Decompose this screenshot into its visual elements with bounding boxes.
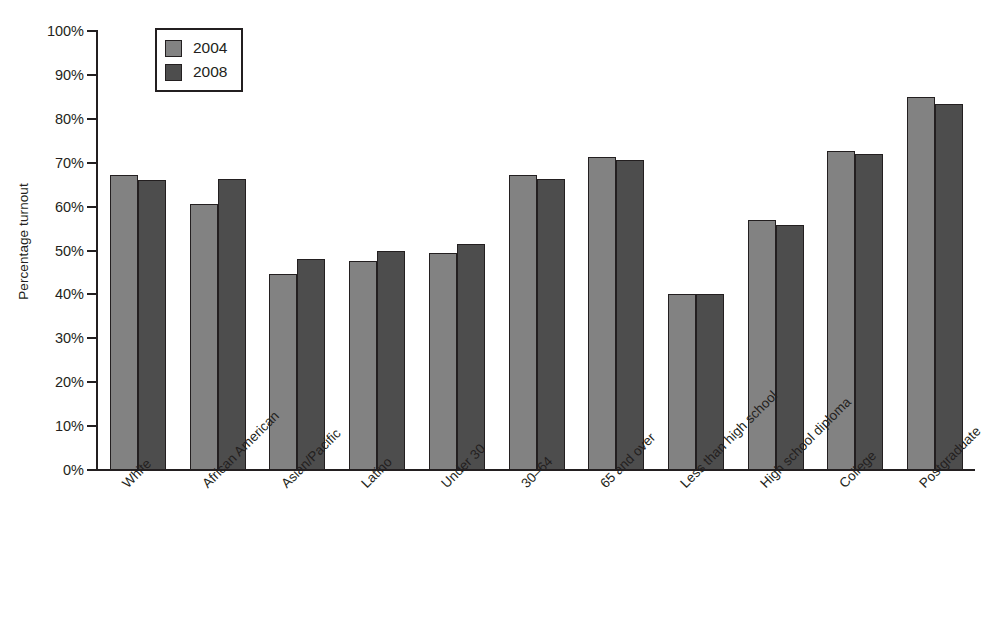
y-axis-tick	[87, 206, 97, 208]
y-axis-tick-label: 30%	[14, 331, 84, 346]
bar-2004-65-and-over[interactable]	[588, 157, 616, 470]
y-axis-tick-label: 10%	[14, 419, 84, 434]
legend: 2004 2008	[155, 28, 243, 92]
y-axis-tick	[87, 250, 97, 252]
legend-swatch-icon-2004	[165, 40, 182, 57]
bar-2004-postgraduate[interactable]	[907, 97, 935, 470]
y-axis-tick	[87, 337, 97, 339]
y-axis-tick	[87, 469, 97, 471]
bar-2008-college[interactable]	[855, 154, 883, 470]
y-axis-tick-label: 100%	[14, 24, 84, 39]
bar-2008-postgraduate[interactable]	[935, 104, 963, 470]
bar-2004-african-american[interactable]	[190, 204, 218, 470]
legend-item-2008[interactable]: 2008	[165, 60, 227, 84]
bar-2004-white[interactable]	[110, 175, 138, 470]
y-axis-tick	[87, 74, 97, 76]
y-axis-tick-label: 70%	[14, 156, 84, 171]
y-axis-tick-label: 50%	[14, 244, 84, 259]
bar-2008-65-and-over[interactable]	[616, 160, 644, 470]
bar-2004-under-30[interactable]	[429, 253, 457, 470]
bar-2004-30-64[interactable]	[509, 175, 537, 470]
legend-label-2008: 2008	[193, 64, 227, 80]
y-axis-tick-label: 60%	[14, 200, 84, 215]
bar-2004-less-than-high-school[interactable]	[668, 294, 696, 470]
y-axis-tick	[87, 30, 97, 32]
bar-2008-white[interactable]	[138, 180, 166, 470]
y-axis-title: Percentage turnout	[16, 147, 31, 337]
bar-2008-30-64[interactable]	[537, 179, 565, 470]
bar-2008-high-school-diploma[interactable]	[776, 225, 804, 470]
bar-2004-latino[interactable]	[349, 261, 377, 470]
y-axis-tick-label: 20%	[14, 375, 84, 390]
legend-item-2004[interactable]: 2004	[165, 36, 227, 60]
bar-2004-asian-pacific[interactable]	[269, 274, 297, 470]
y-axis-tick-label: 90%	[14, 68, 84, 83]
bar-chart: Percentage turnout 100%90%80%70%60%50%40…	[0, 0, 996, 631]
bar-2004-high-school-diploma[interactable]	[748, 220, 776, 470]
bar-2008-african-american[interactable]	[218, 179, 246, 470]
y-axis-tick	[87, 118, 97, 120]
y-axis-tick	[87, 425, 97, 427]
legend-swatch-icon-2008	[165, 64, 182, 81]
legend-label-2004: 2004	[193, 40, 227, 56]
y-axis-tick-label: 80%	[14, 112, 84, 127]
bar-2008-under-30[interactable]	[457, 244, 485, 470]
y-axis-tick-label: 0%	[14, 463, 84, 478]
y-axis-tick	[87, 162, 97, 164]
y-axis-tick	[87, 293, 97, 295]
y-axis-tick-label: 40%	[14, 287, 84, 302]
y-axis-tick	[87, 381, 97, 383]
bar-2008-latino[interactable]	[377, 251, 405, 471]
